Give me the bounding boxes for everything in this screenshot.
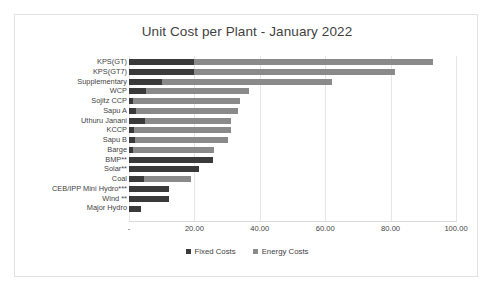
bar-row[interactable] bbox=[129, 194, 456, 204]
bar-row[interactable] bbox=[129, 57, 456, 67]
bar-segment-energy-costs[interactable] bbox=[162, 79, 332, 85]
bar-segment-energy-costs[interactable] bbox=[134, 127, 231, 133]
bar-segment-fixed-costs[interactable] bbox=[129, 108, 136, 114]
x-tick-label: 60.00 bbox=[316, 224, 335, 233]
plot-area: KPS(GT)KPS(GT7)SupplementaryWCPSojitz CC… bbox=[15, 56, 479, 221]
bar-segment-energy-costs[interactable] bbox=[136, 108, 238, 114]
bar-row[interactable] bbox=[129, 116, 456, 126]
x-tick-label: - bbox=[128, 224, 131, 233]
bar-segment-energy-costs[interactable] bbox=[194, 69, 394, 75]
x-tick-label: 20.00 bbox=[185, 224, 204, 233]
x-tick-label: 40.00 bbox=[250, 224, 269, 233]
bar-segment-energy-costs[interactable] bbox=[194, 59, 432, 65]
bar-segment-fixed-costs[interactable] bbox=[129, 118, 145, 124]
category-label: BMP** bbox=[105, 155, 127, 165]
x-tick-label: 100.00 bbox=[444, 224, 467, 233]
bar-row[interactable] bbox=[129, 145, 456, 155]
legend-swatch-icon bbox=[186, 249, 192, 255]
bar-row[interactable] bbox=[129, 96, 456, 106]
bar-segment-fixed-costs[interactable] bbox=[129, 166, 199, 172]
bar-segment-fixed-costs[interactable] bbox=[129, 206, 141, 212]
category-label: Coal bbox=[112, 174, 127, 184]
category-label: Major Hydro bbox=[87, 203, 127, 213]
legend-item[interactable]: Fixed Costs bbox=[186, 247, 236, 256]
category-label: Solar** bbox=[104, 164, 127, 174]
bar-row[interactable] bbox=[129, 164, 456, 174]
chart-title: Unit Cost per Plant - January 2022 bbox=[15, 24, 479, 39]
category-label: WCP bbox=[110, 86, 127, 96]
bar-row[interactable] bbox=[129, 203, 456, 213]
bar-segment-fixed-costs[interactable] bbox=[129, 79, 162, 85]
chart-legend: Fixed CostsEnergy Costs bbox=[15, 247, 479, 256]
bar-row[interactable] bbox=[129, 125, 456, 135]
category-label: Supplementary bbox=[77, 77, 127, 87]
legend-label: Fixed Costs bbox=[195, 247, 236, 256]
legend-swatch-icon bbox=[253, 249, 259, 255]
gridline-100 bbox=[456, 56, 457, 221]
bar-row[interactable] bbox=[129, 86, 456, 96]
category-label: Wind ** bbox=[102, 194, 127, 204]
category-label: KPS(GT7) bbox=[93, 67, 127, 77]
category-label: Sapu B bbox=[103, 135, 127, 145]
bar-segment-fixed-costs[interactable] bbox=[129, 69, 194, 75]
bar-segment-energy-costs[interactable] bbox=[135, 137, 228, 143]
bar-segment-energy-costs[interactable] bbox=[144, 176, 191, 182]
category-label: KPS(GT) bbox=[97, 57, 127, 67]
category-label: CEB/IPP Mini Hydro*** bbox=[52, 184, 127, 194]
bar-segment-energy-costs[interactable] bbox=[133, 98, 240, 104]
legend-item[interactable]: Energy Costs bbox=[253, 247, 309, 256]
bar-segment-fixed-costs[interactable] bbox=[129, 88, 146, 94]
bar-row[interactable] bbox=[129, 67, 456, 77]
bar-segment-energy-costs[interactable] bbox=[146, 88, 249, 94]
bar-segment-fixed-costs[interactable] bbox=[129, 196, 169, 202]
category-label: KCCP bbox=[106, 125, 127, 135]
bars-region bbox=[129, 56, 456, 221]
bar-row[interactable] bbox=[129, 106, 456, 116]
category-label: Sapu A bbox=[103, 106, 127, 116]
chart-container: Unit Cost per Plant - January 2022 KPS(G… bbox=[14, 14, 478, 277]
category-label: Sojitz CCP bbox=[91, 96, 127, 106]
bar-segment-fixed-costs[interactable] bbox=[129, 157, 213, 163]
x-axis-line bbox=[129, 221, 457, 222]
bar-row[interactable] bbox=[129, 77, 456, 87]
bar-row[interactable] bbox=[129, 184, 456, 194]
bar-segment-energy-costs[interactable] bbox=[145, 118, 231, 124]
bar-row[interactable] bbox=[129, 174, 456, 184]
bar-segment-fixed-costs[interactable] bbox=[129, 186, 169, 192]
x-tick-label: 80.00 bbox=[381, 224, 400, 233]
bar-row[interactable] bbox=[129, 155, 456, 165]
bar-segment-fixed-costs[interactable] bbox=[129, 59, 194, 65]
category-label: Uthuru Janani bbox=[81, 116, 127, 126]
legend-label: Energy Costs bbox=[262, 247, 309, 256]
bar-segment-fixed-costs[interactable] bbox=[129, 176, 144, 182]
bar-segment-energy-costs[interactable] bbox=[133, 147, 214, 153]
category-label: Barge bbox=[107, 145, 127, 155]
x-axis-tick-labels: - 20.0040.0060.0080.00100.00 bbox=[15, 224, 479, 238]
category-axis-labels: KPS(GT)KPS(GT7)SupplementaryWCPSojitz CC… bbox=[15, 56, 127, 221]
bar-row[interactable] bbox=[129, 135, 456, 145]
